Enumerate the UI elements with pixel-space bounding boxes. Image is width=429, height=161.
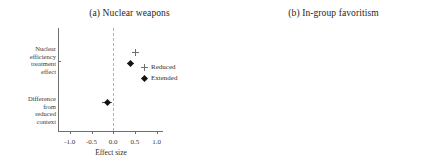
x-tick-label: 0.0 — [109, 138, 118, 146]
y-tick — [58, 131, 61, 132]
panel-a-title: (a) Nuclear weapons — [0, 8, 237, 18]
x-tick — [157, 131, 158, 134]
panel-a-x-axis-title: Effect size — [59, 148, 163, 157]
panel-a-ylabel-1: Difference from reduced context — [8, 95, 56, 125]
x-tick-label: -1.0 — [64, 138, 75, 146]
point-marker-diamond — [127, 59, 134, 66]
panel-b-ylabel-1: Difference from reduced context — [418, 92, 429, 122]
x-tick-label: 1.0 — [152, 138, 161, 146]
legend-item-extended: Extended — [140, 73, 177, 84]
panel-ingroup-favoritism: (b) In-group favoritism US gain effect D… — [210, 0, 429, 161]
x-tick — [113, 131, 114, 134]
legend-label: Reduced — [151, 63, 176, 71]
panel-nuclear-weapons: (a) Nuclear weapons Nuclear efficiency t… — [0, 0, 215, 161]
x-tick — [135, 131, 136, 134]
panel-b-ylabel-0: US gain effect — [424, 55, 429, 70]
point-marker-diamond — [104, 98, 111, 105]
x-tick — [70, 131, 71, 134]
x-tick — [92, 131, 93, 134]
point-marker-cross — [132, 49, 139, 56]
legend-marker-diamond-icon — [140, 73, 149, 84]
x-tick-label: 0.5 — [130, 138, 139, 146]
x-tick-label: -0.5 — [86, 138, 97, 146]
panel-b-title: (b) In-group favoritism — [210, 8, 429, 18]
y-tick — [58, 61, 61, 62]
panel-a-ylabel-0: Nuclear efficiency treatment effect — [8, 45, 56, 75]
figure-root: (a) Nuclear weapons Nuclear efficiency t… — [0, 0, 429, 161]
legend-item-reduced: Reduced — [140, 62, 177, 73]
panel-a-zero-reference-line — [113, 28, 114, 131]
legend-marker-cross-icon — [140, 62, 149, 73]
panel-a-legend: ReducedExtended — [140, 62, 177, 84]
legend-label: Extended — [151, 74, 177, 82]
